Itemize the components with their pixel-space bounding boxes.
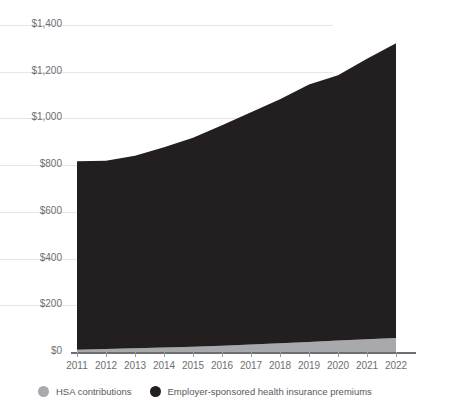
legend-dot-icon-premiums bbox=[150, 386, 161, 397]
x-axis-tick-label: 2012 bbox=[91, 360, 121, 371]
x-axis-tick-label: 2016 bbox=[207, 360, 237, 371]
area-series-employer-sponsored-health-insurance-premiums bbox=[77, 43, 396, 349]
x-axis-tick bbox=[222, 352, 223, 357]
x-axis-tick bbox=[367, 352, 368, 357]
y-axis-tick-label: $600 bbox=[40, 206, 62, 216]
x-axis-tick-label: 2022 bbox=[381, 360, 411, 371]
x-axis-tick bbox=[77, 352, 78, 357]
x-axis-tick-label: 2021 bbox=[352, 360, 382, 371]
x-axis-line bbox=[71, 352, 416, 354]
x-axis-tick bbox=[164, 352, 165, 357]
y-axis-tick-label: $1,400 bbox=[31, 19, 62, 29]
x-axis-tick-label: 2020 bbox=[323, 360, 353, 371]
x-axis-tick bbox=[396, 352, 397, 357]
x-axis-tick bbox=[338, 352, 339, 357]
x-axis-tick bbox=[251, 352, 252, 357]
plot-area bbox=[77, 25, 396, 352]
x-axis-tick-label: 2019 bbox=[294, 360, 324, 371]
x-axis-tick bbox=[106, 352, 107, 357]
stacked-area-chart: $0$200$400$600$800$1,000$1,200$1,400 U.S… bbox=[0, 0, 450, 418]
y-axis-tick-label: $400 bbox=[40, 253, 62, 263]
x-axis-tick bbox=[280, 352, 281, 357]
legend-item-hsa[interactable]: HSA contributions bbox=[38, 386, 132, 397]
legend-label-hsa: HSA contributions bbox=[56, 386, 132, 397]
x-axis-tick-label: 2017 bbox=[236, 360, 266, 371]
chart-legend: HSA contributions Employer-sponsored hea… bbox=[38, 386, 382, 397]
x-axis-tick-label: 2011 bbox=[62, 360, 92, 371]
legend-label-premiums: Employer-sponsored health insurance prem… bbox=[168, 386, 372, 397]
x-axis-tick bbox=[135, 352, 136, 357]
y-axis-tick-label: $1,000 bbox=[31, 112, 62, 122]
y-axis-tick-label: $800 bbox=[40, 159, 62, 169]
y-axis-tick-label: $200 bbox=[40, 299, 62, 309]
x-axis-tick-label: 2013 bbox=[120, 360, 150, 371]
x-axis-tick bbox=[309, 352, 310, 357]
legend-dot-icon-hsa bbox=[38, 386, 49, 397]
area-series-group bbox=[77, 25, 396, 352]
x-axis-tick-label: 2015 bbox=[178, 360, 208, 371]
legend-item-premiums[interactable]: Employer-sponsored health insurance prem… bbox=[150, 386, 372, 397]
x-axis-tick-label: 2018 bbox=[265, 360, 295, 371]
x-axis-tick-label: 2014 bbox=[149, 360, 179, 371]
x-axis-tick bbox=[193, 352, 194, 357]
y-axis-tick-label: $1,200 bbox=[31, 66, 62, 76]
y-axis-tick-label: $0 bbox=[51, 346, 62, 356]
